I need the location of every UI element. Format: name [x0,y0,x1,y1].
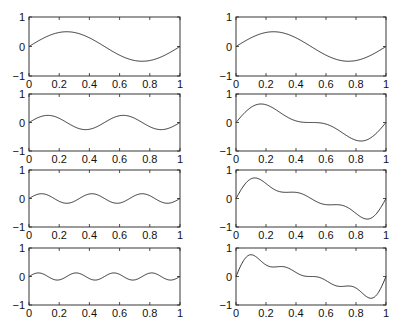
x-tick-label: 0.8 [348,229,363,241]
y-tick-label: −1 [219,70,232,82]
panel-harmonic-3: 00.20.40.60.81−101 [12,164,183,241]
series-line-harmonic-3 [29,194,180,204]
panel-partial-sum-2: 00.20.40.60.81−101 [219,88,389,165]
y-tick-label: −1 [12,221,25,233]
y-tick-label: −1 [219,221,232,233]
series-line-partial-sum-4 [236,255,386,299]
x-tick-label: 0 [233,153,239,165]
x-tick-label: 0.8 [142,307,157,319]
y-tick-label: 0 [19,271,25,283]
panel-partial-sum-3: 00.20.40.60.81−101 [219,164,389,241]
figure: 00.20.40.60.81−10100.20.40.60.81−10100.2… [0,0,402,331]
x-tick-label: 0.2 [52,78,67,90]
y-tick-label: 1 [226,11,232,23]
x-tick-label: 0.2 [258,307,273,319]
x-tick-label: 0.8 [348,153,363,165]
y-tick-label: −1 [219,145,232,157]
y-tick-label: 0 [226,193,232,205]
y-tick-label: 1 [19,164,25,176]
series-line-partial-sum-3 [236,178,386,219]
y-tick-label: −1 [12,70,25,82]
x-tick-label: 0 [233,78,239,90]
x-tick-label: 0.2 [52,307,67,319]
x-tick-label: 1 [177,307,183,319]
x-tick-label: 1 [177,229,183,241]
y-tick-label: 1 [19,11,25,23]
y-tick-label: 1 [226,88,232,100]
x-tick-label: 0.2 [52,229,67,241]
x-tick-label: 1 [383,78,389,90]
y-tick-label: 1 [19,242,25,254]
x-tick-label: 1 [177,153,183,165]
x-tick-label: 0.4 [288,78,303,90]
x-tick-label: 0 [26,78,32,90]
x-tick-label: 0.4 [288,153,303,165]
panel-harmonic-4: 00.20.40.60.81−101 [12,242,183,319]
x-tick-label: 0.6 [318,229,333,241]
x-tick-label: 0.4 [82,153,97,165]
x-tick-label: 1 [177,78,183,90]
x-tick-label: 0.2 [258,78,273,90]
x-tick-label: 0.8 [142,78,157,90]
x-tick-label: 0.2 [258,229,273,241]
x-tick-label: 0.8 [348,307,363,319]
x-tick-label: 0.2 [52,153,67,165]
series-line-partial-sum-2 [236,104,386,141]
panel-partial-sum-4: 00.20.40.60.81−101 [219,242,389,319]
x-tick-label: 0.4 [82,307,97,319]
x-tick-label: 0 [26,307,32,319]
x-tick-label: 0.4 [82,78,97,90]
y-tick-label: 0 [226,41,232,53]
y-tick-label: −1 [12,145,25,157]
y-tick-label: 1 [226,164,232,176]
x-tick-label: 0.6 [112,153,127,165]
x-tick-label: 0.6 [112,229,127,241]
x-tick-label: 0.6 [112,307,127,319]
y-tick-label: 1 [226,242,232,254]
panel-partial-sum-1: 00.20.40.60.81−101 [219,11,389,90]
x-tick-label: 1 [383,307,389,319]
x-tick-label: 0 [26,153,32,165]
y-tick-label: −1 [219,299,232,311]
x-tick-label: 0.6 [318,153,333,165]
series-line-harmonic-1 [29,32,180,62]
series-line-harmonic-4 [29,273,180,280]
y-tick-label: 1 [19,88,25,100]
y-tick-label: 0 [19,41,25,53]
series-line-harmonic-2 [29,115,180,129]
y-tick-label: 0 [19,193,25,205]
panel-harmonic-1: 00.20.40.60.81−101 [12,11,183,90]
y-tick-label: 0 [226,271,232,283]
y-tick-label: 0 [19,117,25,129]
x-tick-label: 0.4 [288,307,303,319]
series-line-partial-sum-1 [236,32,386,62]
x-tick-label: 0.4 [288,229,303,241]
x-tick-label: 0.4 [82,229,97,241]
x-tick-label: 0.2 [258,153,273,165]
panel-harmonic-2: 00.20.40.60.81−101 [12,88,183,165]
x-tick-label: 0 [233,229,239,241]
x-tick-label: 0 [233,307,239,319]
x-tick-label: 0.8 [348,78,363,90]
x-tick-label: 0 [26,229,32,241]
y-tick-label: −1 [12,299,25,311]
x-tick-label: 0.8 [142,153,157,165]
x-tick-label: 1 [383,229,389,241]
y-tick-label: 0 [226,117,232,129]
x-tick-label: 0.6 [318,78,333,90]
x-tick-label: 0.6 [318,307,333,319]
x-tick-label: 0.6 [112,78,127,90]
x-tick-label: 0.8 [142,229,157,241]
x-tick-label: 1 [383,153,389,165]
